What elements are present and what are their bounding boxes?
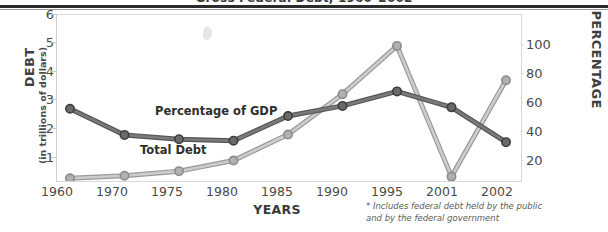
y-tick-2: 2 bbox=[20, 122, 54, 135]
chart-root: Gross Federal Debt, 1960–2002 DEBT (in t… bbox=[0, 0, 608, 232]
y-tick-6: 6 bbox=[20, 8, 54, 21]
y2-tick-100: 100 bbox=[526, 38, 566, 51]
x-tick-1960: 1960 bbox=[34, 186, 80, 199]
y2-tick-60: 60 bbox=[526, 96, 566, 109]
y-axis-right-ticks: 100 80 60 40 20 bbox=[526, 0, 572, 200]
y-tick-3: 3 bbox=[20, 93, 54, 106]
series-label-percentage-of-gdp: Percentage of GDP bbox=[155, 104, 277, 118]
footnote-line-1: * Includes federal debt held by the publ… bbox=[366, 200, 542, 212]
x-tick-1970: 1970 bbox=[89, 186, 135, 199]
footnote-line-2: and by the federal government bbox=[366, 212, 542, 224]
chart-footnote: * Includes federal debt held by the publ… bbox=[366, 200, 542, 225]
y-tick-1: 1 bbox=[20, 151, 54, 164]
y2-tick-20: 20 bbox=[526, 154, 566, 167]
y-tick-5: 5 bbox=[20, 36, 54, 49]
x-tick-1985: 1985 bbox=[254, 186, 300, 199]
y-tick-4: 4 bbox=[20, 65, 54, 78]
y2-tick-40: 40 bbox=[526, 125, 566, 138]
y-axis-left-ticks: 6 5 4 3 2 1 bbox=[14, 0, 54, 200]
x-tick-2001: 2001 bbox=[419, 186, 465, 199]
x-tick-2002: 2002 bbox=[474, 186, 520, 199]
x-tick-1990: 1990 bbox=[309, 186, 355, 199]
x-tick-1975: 1975 bbox=[144, 186, 190, 199]
y-axis-right-title: PERCENTAGE bbox=[589, 0, 604, 120]
y2-tick-80: 80 bbox=[526, 67, 566, 80]
title-rule-secondary bbox=[0, 9, 608, 10]
chart-canvas bbox=[57, 15, 521, 181]
x-axis-title: YEARS bbox=[242, 202, 312, 217]
x-tick-1980: 1980 bbox=[199, 186, 245, 199]
title-rule bbox=[0, 5, 608, 8]
series-label-total-debt: Total Debt bbox=[140, 143, 207, 157]
x-tick-1995: 1995 bbox=[364, 186, 410, 199]
plot-area bbox=[56, 14, 522, 182]
